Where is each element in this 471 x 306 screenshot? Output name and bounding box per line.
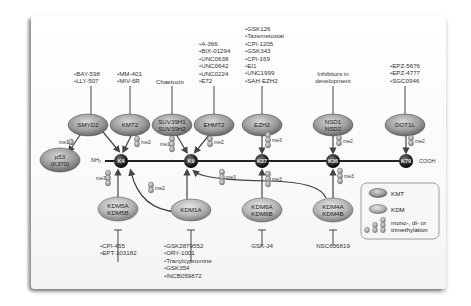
label-line: trimethylation <box>391 226 428 233</box>
legend-kmt-swatch <box>369 189 387 198</box>
kmt-ehmt2-label: EHMT2 <box>194 121 234 128</box>
inhibitor-item: UNC0638 <box>199 55 230 62</box>
label-line: KDM4B <box>313 210 353 217</box>
inhibitor-item: BAY-598 <box>74 70 100 77</box>
label-line: mono-, di- or <box>391 219 428 226</box>
inhibitor-item: BIX-01294 <box>199 47 230 54</box>
mark-kdm6: me3 <box>272 176 282 182</box>
inhibitor-item: INCB059872 <box>164 272 212 279</box>
label-line: NSD2 <box>313 125 353 132</box>
mark-ehmt2: me2 <box>214 139 224 145</box>
inhibitor-item: EPT-103182 <box>100 249 137 256</box>
kdm6-inhibitors: GSK-J4 <box>242 242 282 249</box>
legend-kmt-label: KMT <box>391 190 404 197</box>
legend-methylation-label: mono-, di- or trimethylation <box>391 219 428 234</box>
inhibitor-item: Tazemetostat <box>245 32 284 39</box>
label-line: NSD1 <box>313 118 353 125</box>
label-line: SUV39H2 <box>152 125 192 132</box>
label-line: SUV39H1 <box>152 118 192 125</box>
inhibitor-text-line: development <box>313 77 353 84</box>
kmt-nsd-label: NSD1 NSD2 <box>313 118 353 132</box>
legend-kdm-swatch <box>369 205 387 214</box>
mark-smyd2: me1 <box>59 139 69 145</box>
residue-k27-label: K27 <box>255 158 269 164</box>
kdm-kdm5-label: KDM5A KDM5B <box>98 202 138 216</box>
inhibitor-item: ORY-1001 <box>164 249 212 256</box>
inhibitor-item: SAH-EZH2 <box>245 77 284 84</box>
inhibitor-item: SGC0946 <box>390 77 420 84</box>
inhibitor-item: EI1 <box>245 62 284 69</box>
inhibitor-item: LLY-507 <box>74 77 100 84</box>
mark-suv39h: me1 <box>160 141 170 147</box>
nsd-inhibitors: Inhibitors in development <box>313 70 353 85</box>
kmt2-inhibitors: MM-401 MIV-6R <box>117 70 142 85</box>
suv39h-inhibitor: Chaetocin <box>156 78 184 85</box>
mark-kmt2: me2 <box>141 139 151 145</box>
residue-k9-label: K9 <box>184 158 198 164</box>
label-line: KDM4A <box>313 203 353 210</box>
mark-nsd: me2 <box>343 138 353 144</box>
inhibitor-item: GSK2879552 <box>164 242 212 249</box>
mark-ezh2: me3 <box>272 137 282 143</box>
kdm-kdm6-label: KDM6A KDM6B <box>242 203 282 217</box>
label-line: p53 <box>40 153 80 160</box>
inhibitor-item: CPI-1205 <box>245 40 284 47</box>
residue-k4-label: K4 <box>114 158 128 164</box>
c-terminus-label: COOH <box>419 158 436 164</box>
ezh2-inhibitors: GSK126 Tazemetostat CPI-1205 GSK343 CPI-… <box>245 25 284 84</box>
mark-k9: me3 <box>226 174 236 180</box>
n-terminus-label: NH₂ <box>91 157 101 163</box>
mark-dot1l: me2 <box>415 138 425 144</box>
inhibitor-item: A-366 <box>199 40 230 47</box>
mark-kdm5: me3 <box>96 175 106 181</box>
mark-kdm4: me3 <box>344 173 354 179</box>
residue-k36-label: K36 <box>326 158 340 164</box>
inhibitor-item: EPZ-4777 <box>390 69 420 76</box>
label-line: KDM6B <box>242 210 282 217</box>
kdm1a-inhibitors: GSK2879552 ORY-1001 Tranylcypromine GSK3… <box>164 242 212 279</box>
substrate-p53-label: p53 (K370) <box>40 153 80 167</box>
label-line: KDM5A <box>98 202 138 209</box>
kdm-kdm4-label: KDM4A KDM4B <box>313 203 353 217</box>
kdm5-inhibitors: CPI-455 EPT-103182 <box>100 242 137 257</box>
smyd2-inhibitors: BAY-598 LLY-507 <box>74 70 100 85</box>
inhibitor-text-line: Inhibitors in <box>313 70 353 77</box>
label-line: KDM5B <box>98 209 138 216</box>
kmt-dot1l-label: DOT1L <box>385 121 425 128</box>
kmt-kmt2-label: KMT2 <box>110 121 150 128</box>
inhibitor-item: GSK343 <box>245 47 284 54</box>
inhibitor-item: Tranylcypromine <box>164 257 212 264</box>
dot1l-inhibitors: EPZ-5676 EPZ-4777 SGC0946 <box>390 62 420 84</box>
mark-kdm1a: me2 <box>155 185 165 191</box>
legend-kdm-label: KDM <box>391 206 405 213</box>
inhibitor-item: GSK354 <box>164 264 212 271</box>
inhibitor-item: CPI-455 <box>100 242 137 249</box>
residue-k79-label: K79 <box>399 158 413 164</box>
inhibitor-item: EPZ-5676 <box>390 62 420 69</box>
ehmt2-inhibitors: A-366 BIX-01294 UNC0638 UNC0642 UNC0224 … <box>199 40 230 84</box>
kdm-kdm1a-label: KDM1A <box>171 206 211 213</box>
kmt-ezh2-label: EZH2 <box>242 121 282 128</box>
inhibitor-item: UNC0224 <box>199 70 230 77</box>
inhibitor-item: E72 <box>199 77 230 84</box>
kdm4-inhibitors: NSC636819 <box>308 242 358 249</box>
inhibitor-item: UNC1999 <box>245 69 284 76</box>
kmt-smyd2-label: SMYD2 <box>68 121 108 128</box>
label-line: KDM6A <box>242 203 282 210</box>
inhibitor-item: MM-401 <box>117 70 142 77</box>
inhibitor-item: UNC0642 <box>199 62 230 69</box>
inhibitor-item: CPI-169 <box>245 55 284 62</box>
label-line: (K370) <box>40 160 80 167</box>
inhibitor-item: MIV-6R <box>117 77 142 84</box>
kmt-suv39h-label: SUV39H1 SUV39H2 <box>152 118 192 132</box>
inhibitor-item: GSK126 <box>245 25 284 32</box>
